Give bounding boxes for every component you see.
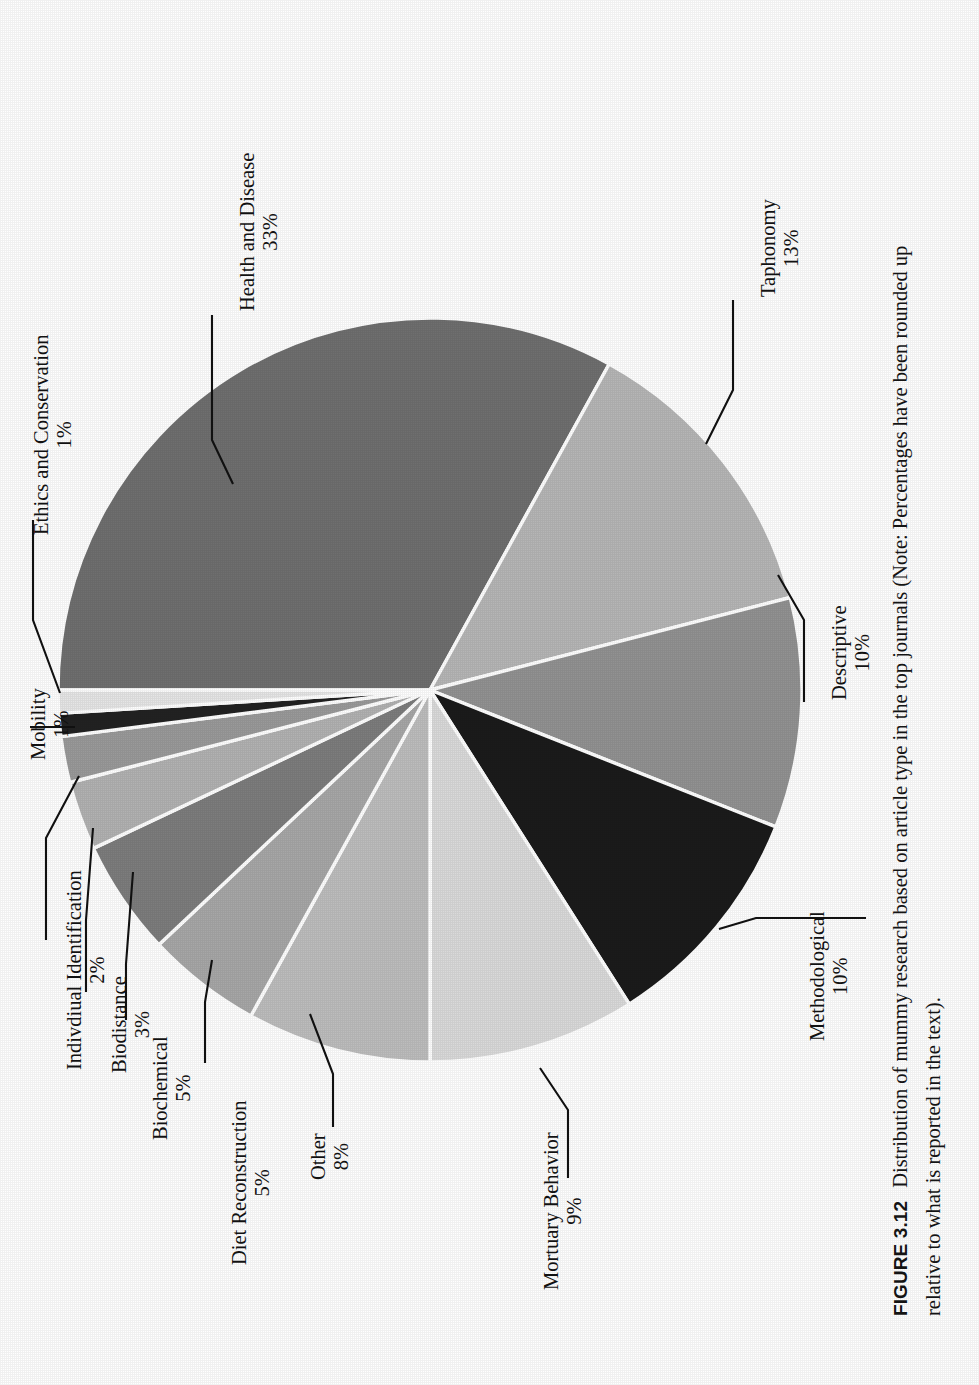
pie-wedges-group [58,318,802,1062]
pie-label-other-name: Other [307,1133,329,1180]
pie-label-methodological-pct: 10% [829,911,852,1041]
pie-label-ethics-and-conservation-name: Ethics and Conservation [30,335,52,535]
pie-label-diet-reconstruction: Diet Reconstruction 5% [228,1100,274,1265]
figure-caption-text: Distribution of mummy research based on … [889,246,944,1316]
pie-label-taphonomy-pct: 13% [780,199,803,297]
pie-label-mortuary-behavior-pct: 9% [563,1132,586,1290]
pie-label-mobility-pct: 1% [50,688,73,760]
pie-label-diet-reconstruction-name: Diet Reconstruction [228,1100,250,1265]
pie-label-mobility: Mobility 1% [27,688,73,760]
pie-label-health-and-disease-name: Health and Disease [236,153,258,311]
pie-label-biodistance-name: Biodistance [108,976,130,1073]
pie-label-taphonomy: Taphonomy 13% [757,199,803,297]
pie-label-descriptive: Descriptive 10% [828,606,874,701]
leader-line-ethics-and-conservation [33,520,60,693]
pie-label-ethics-and-conservation: Ethics and Conservation 1% [30,335,76,535]
pie-label-other: Other 8% [307,1133,353,1180]
pie-label-methodological: Methodological 10% [806,911,852,1041]
figure-page: Health and Disease 33% Taphonomy 13% Des… [0,0,979,1385]
pie-label-individual-identification-name: Indivdiual Identification [63,870,85,1070]
pie-label-mortuary-behavior-name: Mortuary Behavior [540,1132,562,1290]
figure-number: FIGURE 3.12 [890,1201,911,1316]
pie-label-taphonomy-name: Taphonomy [757,199,779,297]
pie-label-mortuary-behavior: Mortuary Behavior 9% [540,1132,586,1290]
pie-label-biochemical: Biochemical 5% [149,1036,195,1140]
pie-label-health-and-disease: Health and Disease 33% [236,153,282,311]
pie-label-descriptive-pct: 10% [851,606,874,701]
pie-label-ethics-and-conservation-pct: 1% [53,335,76,535]
pie-label-descriptive-name: Descriptive [828,606,850,701]
pie-label-biodistance: Biodistance 3% [108,976,154,1073]
pie-label-mobility-name: Mobility [27,688,49,760]
pie-label-other-pct: 8% [330,1133,353,1180]
pie-label-methodological-name: Methodological [806,911,828,1041]
pie-label-individual-identification: Indivdiual Identification 2% [63,870,109,1070]
figure-caption: FIGURE 3.12Distribution of mummy researc… [884,196,950,1316]
pie-label-individual-identification-pct: 2% [86,870,109,1070]
pie-label-biodistance-pct: 3% [131,976,154,1073]
leader-line-taphonomy [706,300,733,444]
pie-label-health-and-disease-pct: 33% [259,153,282,311]
pie-chart-plot-area: Health and Disease 33% Taphonomy 13% Des… [0,0,979,1385]
pie-label-diet-reconstruction-pct: 5% [251,1100,274,1265]
pie-label-biochemical-pct: 5% [172,1036,195,1140]
